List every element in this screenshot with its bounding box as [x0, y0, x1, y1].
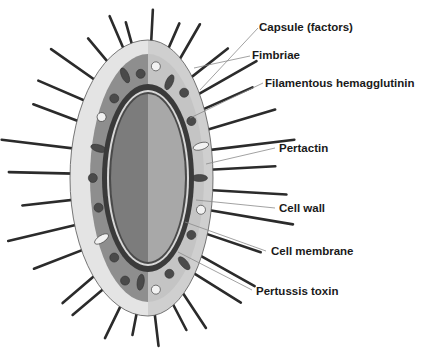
label-fimbriae: Fimbriae	[252, 49, 300, 61]
label-pertussis-toxin: Pertussis toxin	[256, 285, 338, 297]
label-cell-wall: Cell wall	[279, 202, 325, 214]
label-cell-membrane: Cell membrane	[271, 245, 353, 257]
label-capsule: Capsule (factors)	[259, 21, 353, 33]
leader-capsule	[200, 28, 258, 90]
surface-protein	[88, 174, 97, 183]
label-pertactin: Pertactin	[279, 142, 328, 154]
bacterium-diagram: Capsule (factors) Fimbriae Filamentous h…	[0, 0, 436, 350]
label-fha: Filamentous hemagglutinin	[265, 77, 415, 89]
